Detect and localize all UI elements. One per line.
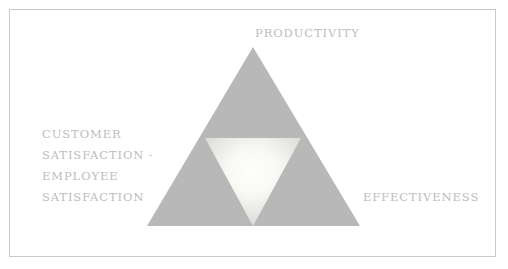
label-productivity: PRODUCTIVITY xyxy=(255,26,360,40)
label-line-customer: CUSTOMER xyxy=(42,124,162,145)
diagram-root: PRODUCTIVITY EFFECTIVENESS CUSTOMER SATI… xyxy=(0,0,508,269)
label-line-satisfaction-2: SATISFACTION xyxy=(42,187,162,208)
label-effectiveness: EFFECTIVENESS xyxy=(363,190,479,204)
label-line-satisfaction-1: SATISFACTION - xyxy=(42,145,162,166)
label-customer-employee-satisfaction: CUSTOMER SATISFACTION - EMPLOYEE SATISFA… xyxy=(42,124,162,208)
label-line-employee: EMPLOYEE xyxy=(42,166,162,187)
